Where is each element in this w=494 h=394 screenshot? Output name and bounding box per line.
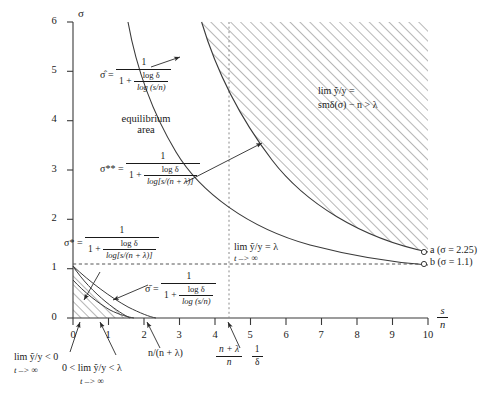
formula-sigma-double-star-inner-numerator: log δ: [144, 165, 197, 176]
x-marker-fraction2-denominator: δ: [252, 357, 263, 368]
y-axis: [67, 22, 73, 318]
x-tick-label-8: 8: [350, 329, 364, 340]
y-tick-label-4: 4: [47, 113, 61, 124]
formula-sigma-bar-numerator: 1: [161, 272, 216, 284]
lambda-limit-line1: lim ỹ/y = λ: [234, 240, 278, 253]
formula-sigma-double-star-inner-lead: 1 +: [129, 170, 141, 180]
x-marker-fraction1-denominator: n: [216, 357, 242, 368]
formula-sigma-double-star-numerator: 1: [126, 152, 200, 164]
formula-sigma-double-star: σ** = 1 1 + log δ log[s/(n + λ)]: [100, 152, 200, 186]
formula-sigma-bar-inner-lead: 1 +: [164, 290, 176, 300]
point-b-label: b (σ = 1.1): [430, 257, 473, 268]
figure-container: 6 5 4 3 2 1 0 σ 0 1 2 3 4 5 6 7 8 9 10 s…: [0, 0, 494, 394]
x-marker-fraction1-numerator: n + λ: [216, 345, 242, 357]
y-tick-label-2: 2: [47, 212, 61, 223]
formula-sigma-star-lhs: σ* =: [64, 238, 83, 249]
formula-sigma-bar-inner-numerator: log δ: [179, 285, 214, 296]
neg-limit-line1: lim ỹ/y < 0: [14, 350, 58, 364]
x-tick-label-3: 3: [172, 329, 186, 340]
x-marker-fraction-group: n + λ n 1 δ: [216, 345, 263, 368]
equilibrium-area-label: equilibrium area: [106, 113, 186, 135]
mid-limit-label: 0 < lim ỹ/y < λ t –> ∞: [62, 361, 122, 387]
x-tick-label-4: 4: [208, 329, 222, 340]
formula-sigma-bar-lhs: σ̄ =: [145, 284, 159, 295]
hatched-region-label-line1: lim ỹ/y =: [318, 84, 378, 98]
lambda-limit-label: lim ỹ/y = λ t –> ∞: [234, 240, 278, 265]
hatched-region-label-line2: smδ(σ) − n > λ: [318, 98, 378, 112]
formula-sigma-star-inner-numerator: log δ: [103, 239, 156, 250]
x-axis-label: s n: [437, 305, 448, 330]
x-axis-label-numerator: s: [437, 305, 448, 318]
neg-limit-label: lim ỹ/y < 0 t –> ∞: [14, 350, 58, 376]
x-axis: [73, 318, 428, 325]
x-tick-label-1: 1: [101, 329, 115, 340]
equilibrium-area-line1: equilibrium: [106, 113, 186, 124]
formula-sigma-hat-inner-lead: 1 +: [119, 76, 131, 86]
formula-sigma-hat-lhs: σ̂ =: [100, 70, 114, 81]
formula-sigma-star-inner-denominator: log[s/(n + λ)]: [103, 250, 156, 260]
formula-sigma-bar-inner-denominator: log (s/n): [179, 296, 214, 306]
hatched-region-near-origin: [73, 266, 156, 318]
neg-limit-line2: t –> ∞: [14, 364, 58, 376]
mid-limit-line1: 0 < lim ỹ/y < λ: [62, 361, 122, 375]
hatched-region-upper-right: [202, 22, 428, 252]
y-tick-label-6: 6: [47, 15, 61, 26]
hatched-region-label: lim ỹ/y = smδ(σ) − n > λ: [318, 84, 378, 111]
formula-sigma-hat-numerator: 1: [116, 58, 171, 70]
n-over-n-plus-lambda-label: n/(n + λ): [148, 348, 183, 359]
y-axis-label: σ: [78, 8, 84, 20]
x-tick-label-6: 6: [279, 329, 293, 340]
formula-sigma-hat-inner-numerator: log δ: [134, 71, 169, 82]
y-tick-label-0: 0: [47, 311, 61, 322]
point-a-label: a (σ = 2.25): [430, 245, 477, 256]
y-tick-label-5: 5: [47, 64, 61, 75]
x-tick-label-0: 0: [66, 329, 80, 340]
x-marker-fraction2-numerator: 1: [252, 345, 263, 357]
y-tick-label-1: 1: [47, 261, 61, 272]
equilibrium-area-line2: area: [106, 124, 186, 135]
formula-sigma-hat: σ̂ = 1 1 + log δ log (s/n): [100, 58, 171, 92]
formula-sigma-bar: σ̄ = 1 1 + log δ log (s/n): [145, 272, 216, 306]
leader-arrow-sigma-bar: [113, 285, 148, 300]
lambda-limit-line2: t –> ∞: [234, 253, 278, 265]
formula-sigma-hat-inner-denominator: log (s/n): [134, 82, 169, 92]
formula-sigma-star: σ* = 1 1 + log δ log[s/(n + λ)]: [64, 226, 159, 260]
x-tick-label-10: 10: [419, 329, 437, 340]
formula-sigma-double-star-lhs: σ** =: [100, 164, 124, 175]
formula-sigma-double-star-inner-denominator: log[s/(n + λ)]: [144, 176, 197, 186]
mid-limit-line2: t –> ∞: [62, 375, 122, 387]
formula-sigma-star-numerator: 1: [85, 226, 159, 238]
x-tick-label-2: 2: [137, 329, 151, 340]
x-tick-label-9: 9: [385, 329, 399, 340]
point-marker-b: [421, 261, 426, 266]
formula-sigma-star-inner-lead: 1 +: [88, 244, 100, 254]
x-axis-label-denominator: n: [437, 318, 448, 330]
x-tick-label-5: 5: [243, 329, 257, 340]
y-tick-label-3: 3: [47, 163, 61, 174]
x-tick-label-7: 7: [314, 329, 328, 340]
point-marker-a: [421, 249, 426, 254]
